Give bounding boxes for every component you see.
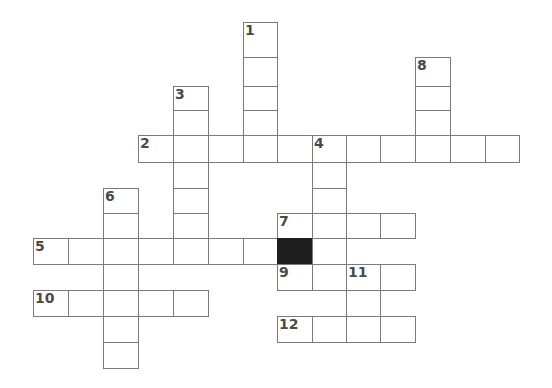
clue-number: 10 [35, 290, 54, 306]
crossword-cell[interactable]: 4 [312, 135, 347, 163]
crossword-cell[interactable] [312, 264, 347, 291]
crossword-cell[interactable] [346, 316, 381, 343]
crossword-cell[interactable] [208, 135, 244, 163]
crossword-cell[interactable] [103, 342, 139, 369]
crossword-cell[interactable] [68, 290, 104, 317]
crossword-grid: 183246759111012 [0, 0, 552, 388]
crossword-cell[interactable] [208, 238, 244, 265]
crossword-cell[interactable]: 5 [33, 238, 69, 265]
clue-number: 1 [245, 22, 255, 38]
crossword-cell[interactable]: 6 [103, 188, 139, 214]
crossword-cell[interactable] [243, 57, 278, 87]
crossword-cell[interactable] [346, 290, 381, 317]
crossword-cell[interactable]: 9 [277, 264, 313, 291]
crossword-cell[interactable] [103, 316, 139, 343]
crossword-cell[interactable] [103, 238, 139, 265]
crossword-cell[interactable] [103, 213, 139, 239]
crossword-cell[interactable] [173, 238, 209, 265]
clue-number: 3 [175, 86, 185, 102]
clue-number: 2 [140, 135, 150, 151]
crossword-cell[interactable] [415, 86, 451, 111]
crossword-cell[interactable]: 10 [33, 290, 69, 317]
clue-number: 7 [279, 213, 289, 229]
crossword-cell[interactable] [173, 290, 209, 317]
crossword-cell[interactable] [68, 238, 104, 265]
clue-number: 9 [279, 264, 289, 280]
crossword-cell[interactable]: 12 [277, 316, 313, 343]
crossword-cell[interactable]: 1 [243, 22, 278, 58]
crossword-cell[interactable] [415, 135, 451, 163]
clue-number: 11 [348, 264, 367, 280]
clue-number: 4 [314, 135, 324, 151]
clue-number: 12 [279, 316, 298, 332]
crossword-cell[interactable] [243, 110, 278, 136]
crossword-cell[interactable] [346, 213, 381, 239]
crossword-cell[interactable]: 3 [173, 86, 209, 111]
crossword-cell[interactable]: 8 [415, 57, 451, 87]
crossword-cell[interactable]: 2 [138, 135, 174, 163]
crossword-cell[interactable] [173, 188, 209, 214]
crossword-cell[interactable] [103, 290, 139, 317]
crossword-cell[interactable] [312, 188, 347, 214]
crossword-cell[interactable] [380, 135, 416, 163]
crossword-cell[interactable] [415, 110, 451, 136]
crossword-cell[interactable] [277, 135, 313, 163]
clue-number: 5 [35, 238, 45, 254]
crossword-cell[interactable]: 11 [346, 264, 381, 291]
crossword-cell[interactable] [243, 86, 278, 111]
crossword-cell[interactable] [312, 316, 347, 343]
crossword-cell[interactable] [173, 162, 209, 189]
crossword-cell[interactable] [450, 135, 486, 163]
crossword-cell[interactable]: 7 [277, 213, 313, 239]
crossword-cell[interactable] [380, 316, 416, 343]
crossword-cell[interactable] [380, 213, 416, 239]
crossword-cell[interactable] [173, 110, 209, 136]
crossword-cell[interactable] [346, 135, 381, 163]
crossword-cell[interactable] [173, 135, 209, 163]
crossword-cell[interactable] [243, 135, 278, 163]
crossword-cell[interactable] [312, 162, 347, 189]
block-cell [277, 238, 313, 265]
clue-number: 6 [105, 188, 115, 204]
crossword-cell[interactable] [243, 238, 278, 265]
crossword-cell[interactable] [380, 264, 416, 291]
crossword-cell[interactable] [103, 264, 139, 291]
crossword-cell[interactable] [312, 213, 347, 239]
crossword-cell[interactable] [138, 238, 174, 265]
crossword-cell[interactable] [312, 238, 347, 265]
clue-number: 8 [417, 57, 427, 73]
crossword-cell[interactable] [173, 213, 209, 239]
crossword-cell[interactable] [138, 290, 174, 317]
crossword-cell[interactable] [485, 135, 520, 163]
